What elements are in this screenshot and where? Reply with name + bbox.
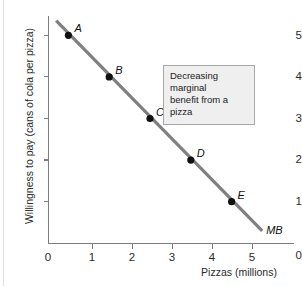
data-point-c: [146, 115, 153, 122]
data-point-d: [187, 157, 194, 164]
mb-curve-label: MB: [266, 225, 283, 236]
data-point-label-e: E: [238, 190, 245, 201]
data-point-b: [106, 73, 113, 80]
data-point-label-d: D: [197, 148, 205, 159]
plot-area: [0, 0, 302, 286]
data-point-e: [228, 198, 235, 205]
data-point-label-a: A: [74, 23, 81, 34]
annotation-line-1: Decreasing marginal: [170, 70, 249, 94]
data-point-a: [65, 32, 72, 39]
annotation-line-2: benefit from a pizza: [170, 94, 249, 118]
annotation-decreasing-marginal-benefit: Decreasing marginal benefit from a pizza: [163, 65, 255, 125]
data-point-label-b: B: [115, 65, 122, 76]
marginal-benefit-chart: 5 4 3 2 1 0 0 1 2 3 4 5 Willingness to p…: [0, 0, 302, 286]
